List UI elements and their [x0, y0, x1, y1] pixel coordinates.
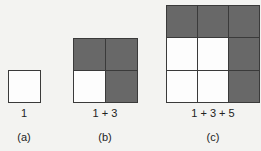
- square-grid-c: [166, 5, 260, 103]
- grid-cell-dark: [229, 71, 259, 102]
- grid-cell-white: [9, 71, 40, 102]
- sum-label-a: 1: [0, 107, 64, 119]
- square-grid-a: [8, 70, 41, 103]
- grid-cell-dark: [229, 6, 259, 37]
- grid-cell-dark: [106, 39, 137, 70]
- grid-cell-white: [74, 71, 105, 102]
- grid-cell-white: [167, 71, 197, 102]
- caption-b: (b): [65, 131, 145, 143]
- grid-cell-white: [198, 71, 228, 102]
- sum-label-b: 1 + 3: [65, 107, 145, 119]
- grid-cell-dark: [167, 6, 197, 37]
- caption-c: (c): [173, 131, 253, 143]
- grid-cell-dark: [106, 71, 137, 102]
- grid-cell-dark: [198, 6, 228, 37]
- grid-cell-white: [198, 38, 228, 69]
- sum-label-c: 1 + 3 + 5: [173, 107, 253, 119]
- grid-cell-dark: [229, 38, 259, 69]
- grid-cell-dark: [74, 39, 105, 70]
- square-grid-b: [73, 38, 138, 103]
- grid-cell-white: [167, 38, 197, 69]
- caption-a: (a): [0, 131, 64, 143]
